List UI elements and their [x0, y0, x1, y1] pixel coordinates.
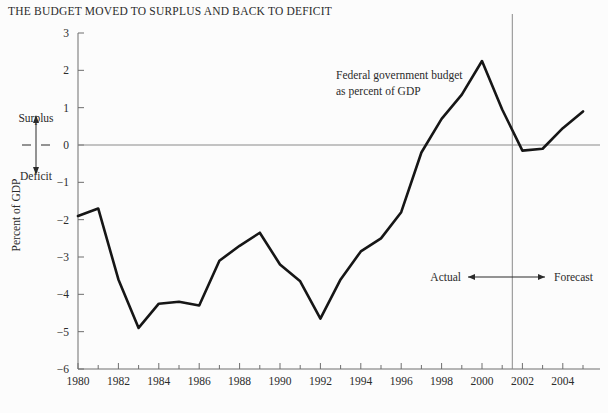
deficit-label: Deficit: [20, 170, 53, 182]
series-label-line1: Federal government budget: [336, 69, 463, 82]
budget-chart: THE BUDGET MOVED TO SURPLUS AND BACK TO …: [0, 0, 608, 413]
annotation-layer: Federal government budget as percent of …: [0, 0, 608, 413]
series-label-line2: as percent of GDP: [336, 85, 421, 98]
surplus-label: Surplus: [18, 112, 54, 125]
actual-label: Actual: [430, 271, 461, 283]
forecast-label: Forecast: [554, 271, 594, 283]
